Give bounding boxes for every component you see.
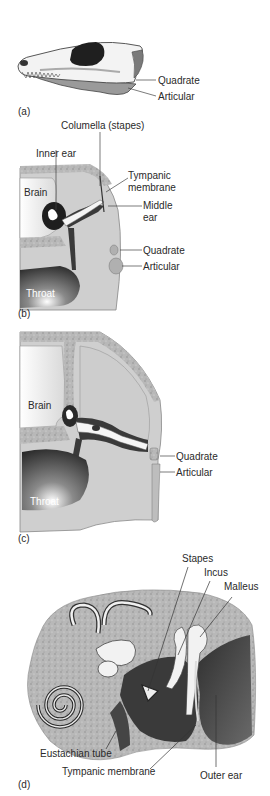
label-throat-c: Throat bbox=[30, 496, 59, 507]
reptile-ear-cross-section bbox=[0, 320, 270, 545]
panel-d: Stapes Incus Malleus Eustachian tube Tym… bbox=[0, 545, 270, 796]
label-articular-a: Articular bbox=[158, 91, 195, 102]
panel-a: Quadrate Articular (a) bbox=[0, 0, 270, 120]
label-articular-c: Articular bbox=[176, 467, 213, 478]
label-columella: Columella (stapes) bbox=[61, 120, 144, 131]
label-incus: Incus bbox=[204, 567, 228, 578]
label-brain-b: Brain bbox=[24, 187, 47, 198]
label-brain-c: Brain bbox=[28, 400, 51, 411]
label-malleus: Malleus bbox=[224, 581, 258, 592]
label-stapes: Stapes bbox=[182, 553, 213, 564]
label-middle-ear-1: Middle bbox=[143, 200, 172, 211]
label-eustachian-tube: Eustachian tube bbox=[40, 748, 112, 759]
label-articular-b: Articular bbox=[143, 261, 180, 272]
label-middle-ear-2: ear bbox=[143, 212, 157, 223]
panel-label-a: (a) bbox=[18, 106, 30, 117]
label-quadrate-b: Quadrate bbox=[143, 245, 185, 256]
panel-b: Columella (stapes) Inner ear Brain Tympa… bbox=[0, 120, 270, 320]
panel-label-c: (c) bbox=[18, 533, 30, 544]
panel-label-d: (d) bbox=[18, 779, 30, 790]
label-tympanic-b-1: Tympanic bbox=[128, 170, 171, 181]
panel-label-b: (b) bbox=[18, 308, 30, 319]
label-tympanic-membrane-d: Tympanic membrane bbox=[62, 766, 155, 777]
label-tympanic-b-2: membrane bbox=[128, 182, 176, 193]
label-outer-ear: Outer ear bbox=[200, 770, 242, 781]
label-inner-ear: Inner ear bbox=[36, 148, 76, 159]
panel-c: Brain Quadrate Articular Throat (c) bbox=[0, 320, 270, 545]
reptile-skull-illustration bbox=[0, 0, 270, 120]
label-throat-b: Throat bbox=[26, 288, 55, 299]
label-quadrate-a: Quadrate bbox=[158, 75, 200, 86]
label-quadrate-c: Quadrate bbox=[176, 451, 218, 462]
